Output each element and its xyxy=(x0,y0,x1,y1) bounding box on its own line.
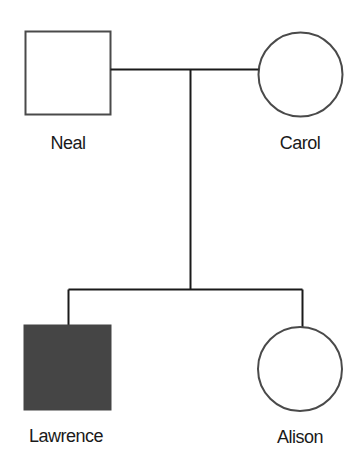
alison-female-symbol xyxy=(258,327,342,411)
neal-male-symbol xyxy=(26,32,111,115)
carol-female-symbol xyxy=(259,33,343,117)
lawrence-affected-male-symbol xyxy=(24,325,111,410)
lawrence-label: Lawrence xyxy=(16,426,116,446)
carol-label: Carol xyxy=(250,133,350,153)
neal-label: Neal xyxy=(18,133,118,153)
alison-label: Alison xyxy=(250,427,350,447)
pedigree-diagram xyxy=(0,0,363,459)
